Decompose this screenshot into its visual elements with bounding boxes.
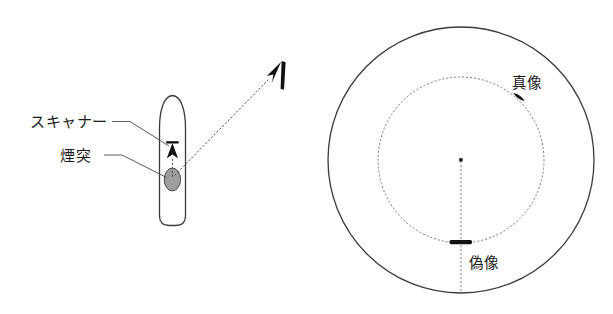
- leader-line-funnel: [104, 155, 167, 178]
- ppi-radar-display: 真像 偽像: [328, 27, 594, 293]
- figure-root: スキャナー 煙突 真像 偽像: [0, 0, 613, 314]
- label-true-echo: 真像: [512, 74, 542, 91]
- reflected-beam-path: [175, 80, 268, 175]
- label-false-echo: 偽像: [469, 255, 499, 271]
- leader-line-scanner: [112, 122, 169, 147]
- radar-false-echo-diagram: スキャナー 煙突 真像 偽像: [0, 0, 613, 314]
- target-echo-marker: [267, 61, 286, 90]
- label-funnel: 煙突: [60, 147, 91, 165]
- false-echo-blip: [450, 240, 473, 244]
- label-scanner: スキャナー: [30, 113, 108, 131]
- ship-plan-view: スキャナー 煙突: [30, 61, 286, 226]
- scanner-marker: [166, 141, 178, 158]
